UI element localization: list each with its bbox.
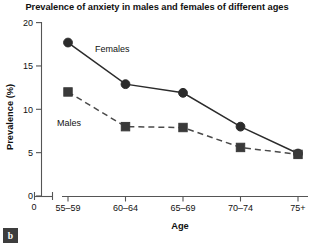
y-axis-tick-label: 0	[28, 191, 33, 201]
x-axis: 0 55–5960–6465–6970–7475+ Age	[31, 192, 308, 231]
y-axis-tick-label: 5	[28, 148, 33, 158]
y-axis-tick-label: 15	[23, 61, 33, 71]
data-point-males-2	[179, 123, 187, 131]
x-axis-origin-label: 0	[31, 202, 36, 212]
series-label-females: Females	[95, 44, 130, 54]
series-label-males: Males	[57, 118, 82, 128]
data-point-males-1	[121, 122, 129, 130]
data-point-females-3	[236, 122, 245, 131]
data-point-females-1	[121, 80, 130, 89]
data-point-males-4	[294, 150, 302, 158]
data-point-females-2	[179, 88, 188, 97]
chart-series-group	[64, 38, 303, 158]
data-point-males-3	[236, 143, 244, 151]
series-line-females	[68, 43, 298, 154]
y-axis-title: Prevalence (%)	[5, 84, 15, 150]
chart-figure: Prevalence of anxiety in males and femal…	[0, 0, 314, 247]
y-axis-tick-label: 10	[23, 105, 33, 115]
y-axis-ticks	[36, 23, 42, 196]
y-axis-tick-labels: 05101520	[23, 18, 33, 201]
panel-label-badge: b	[3, 228, 18, 243]
x-axis-tick-label: 70–74	[228, 203, 253, 213]
x-axis-tick-label: 55–59	[55, 203, 80, 213]
x-axis-tick-label: 65–69	[170, 203, 195, 213]
x-axis-title: Age	[171, 221, 189, 231]
y-axis: 05101520 Prevalence (%)	[5, 18, 42, 201]
data-point-males-0	[64, 88, 72, 96]
x-axis-tick-label: 60–64	[113, 203, 138, 213]
x-axis-tick-label: 75+	[290, 203, 305, 213]
chart-plot-area: 05101520 Prevalence (%) 0 55–5960–6465–6…	[0, 0, 314, 247]
x-axis-tick-labels: 55–5960–6465–6970–7475+	[55, 203, 305, 213]
y-axis-tick-label: 20	[23, 18, 33, 28]
data-point-females-0	[64, 38, 73, 47]
x-axis-ticks	[68, 197, 298, 202]
chart-series-labels: FemalesMales	[57, 44, 130, 128]
